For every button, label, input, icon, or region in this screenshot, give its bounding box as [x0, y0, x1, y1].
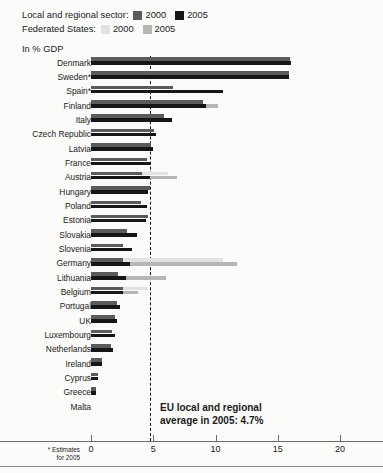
average-annotation-line1: EU local and regional	[160, 401, 263, 414]
legend-swatch-lr-2005	[175, 11, 184, 20]
chart-row: Finland	[0, 99, 383, 113]
category-label: Slovenia	[0, 242, 91, 256]
category-label: Greece	[0, 385, 91, 399]
category-label: Denmark	[0, 56, 91, 70]
bar-lr-2005	[91, 362, 102, 366]
legend-row-local-regional: Local and regional sector: 2000 2005	[22, 8, 217, 22]
category-label: Spain*	[0, 84, 91, 98]
legend-label-lr-2005: 2005	[187, 8, 208, 22]
bar-lr-2005	[91, 377, 98, 381]
bar-lr-2005	[91, 190, 148, 194]
category-label: UK	[0, 314, 91, 328]
bar-lr-2005	[91, 262, 130, 266]
chart-row: Sweden*	[0, 70, 383, 84]
bar-lr-2005	[91, 61, 291, 65]
bar-lr-2005	[91, 104, 206, 108]
chart-row: France	[0, 156, 383, 170]
category-label: Italy	[0, 113, 91, 127]
chart-row: Portugal	[0, 300, 383, 314]
legend-label-lr-2000: 2000	[145, 8, 166, 22]
bar-lr-2005	[91, 219, 146, 223]
chart-row: Lithuania	[0, 271, 383, 285]
category-label: Netherlands	[0, 342, 91, 356]
bar-lr-2005	[91, 305, 120, 309]
bar-lr-2005	[91, 147, 153, 151]
x-tick	[91, 435, 92, 441]
legend-entry-lr-2005: 2005	[175, 8, 208, 22]
legend: Local and regional sector: 2000 2005 Fed…	[22, 8, 217, 36]
average-annotation-line2: average in 2005: 4.7%	[160, 414, 263, 427]
footnote-line2: for 2005	[18, 454, 80, 462]
bottom-rule	[0, 466, 383, 467]
chart-row: Czech Republic	[0, 128, 383, 142]
bar-lr-2005	[91, 334, 115, 338]
bar-lr-2005	[91, 90, 223, 94]
x-tick	[153, 435, 154, 441]
chart-row: Cyprus	[0, 372, 383, 386]
bar-lr-2005	[91, 75, 289, 79]
category-label: Malta	[0, 400, 91, 414]
category-label: Poland	[0, 199, 91, 213]
bar-lr-2005	[91, 276, 126, 280]
chart-row: Italy	[0, 113, 383, 127]
x-tick-label: 5	[151, 444, 156, 454]
bar-lr-2005	[91, 133, 156, 137]
category-label: Lithuania	[0, 271, 91, 285]
bar-rows: DenmarkSweden*Spain*FinlandItalyCzech Re…	[0, 56, 383, 415]
category-label: Belgium	[0, 285, 91, 299]
chart-row: Belgium	[0, 286, 383, 300]
legend-entry-fs-2000: 2000	[101, 22, 134, 36]
chart-row: Slovenia	[0, 242, 383, 256]
category-label: Portugal	[0, 299, 91, 313]
bar-lr-2005	[91, 348, 113, 352]
bar-lr-2005	[91, 291, 123, 295]
bar-lr-2005	[91, 162, 151, 166]
x-tick-label: 0	[88, 444, 93, 454]
bar-lr-2005	[91, 391, 96, 395]
chart-row: Poland	[0, 199, 383, 213]
bar-lr-2005	[91, 205, 147, 209]
x-tick-label: 15	[273, 444, 283, 454]
chart-row: Greece	[0, 386, 383, 400]
legend-label-fs-2005: 2005	[155, 22, 176, 36]
chart-row: Spain*	[0, 85, 383, 99]
average-annotation: EU local and regional average in 2005: 4…	[160, 401, 263, 427]
x-tick-label: 10	[210, 444, 220, 454]
x-tick	[278, 435, 279, 441]
legend-group-title: Federated States:	[22, 22, 96, 36]
bar-lr-2005	[91, 319, 117, 323]
legend-row-federated-states: Federated States: 2000 2005	[22, 22, 217, 36]
chart-row: Luxembourg	[0, 329, 383, 343]
x-tick	[340, 435, 341, 441]
axis-title: In % GDP	[22, 44, 63, 54]
chart-root: Local and regional sector: 2000 2005 Fed…	[0, 0, 383, 473]
plot-area: DenmarkSweden*Spain*FinlandItalyCzech Re…	[0, 56, 383, 441]
chart-row: Hungary	[0, 185, 383, 199]
chart-row: Netherlands	[0, 343, 383, 357]
category-label: Latvia	[0, 142, 91, 156]
chart-row: UK	[0, 314, 383, 328]
category-label: France	[0, 156, 91, 170]
category-label: Cyprus	[0, 371, 91, 385]
legend-entry-lr-2000: 2000	[133, 8, 166, 22]
legend-entry-fs-2005: 2005	[143, 22, 176, 36]
legend-label-fs-2000: 2000	[113, 22, 134, 36]
category-label: Sweden*	[0, 70, 91, 84]
category-label: Czech Republic	[0, 127, 91, 141]
chart-row: Latvia	[0, 142, 383, 156]
legend-swatch-lr-2000	[133, 11, 142, 20]
category-label: Austria	[0, 170, 91, 184]
x-tick	[216, 435, 217, 441]
chart-row: Ireland	[0, 357, 383, 371]
category-label: Hungary	[0, 185, 91, 199]
x-axis-line	[0, 441, 383, 442]
x-tick-label: 20	[335, 444, 345, 454]
legend-swatch-fs-2005	[143, 25, 152, 34]
chart-row: Estonia	[0, 214, 383, 228]
footnote: * Estimates for 2005	[18, 446, 80, 461]
chart-row: Denmark	[0, 56, 383, 70]
bar-lr-2005	[91, 248, 132, 252]
category-label: Slovakia	[0, 228, 91, 242]
chart-row: Germany	[0, 257, 383, 271]
chart-row: Slovakia	[0, 228, 383, 242]
